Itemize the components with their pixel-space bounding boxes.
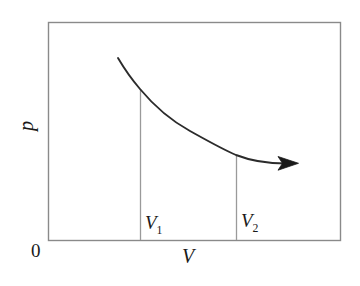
y-axis-label: p [16, 121, 36, 131]
pv-diagram-figure: p V 0 V1 V2 [0, 0, 360, 286]
v1-base-letter: V [145, 212, 157, 233]
v1-subscript: 1 [157, 224, 163, 237]
origin-label: 0 [31, 241, 41, 260]
v1-tick-label: V1 [145, 213, 163, 237]
plot-frame [49, 23, 341, 241]
v2-base-letter: V [241, 210, 253, 231]
pv-diagram-canvas [0, 0, 360, 286]
v2-subscript: 2 [253, 222, 259, 235]
x-axis-label: V [182, 246, 194, 266]
v2-tick-label: V2 [241, 211, 259, 235]
